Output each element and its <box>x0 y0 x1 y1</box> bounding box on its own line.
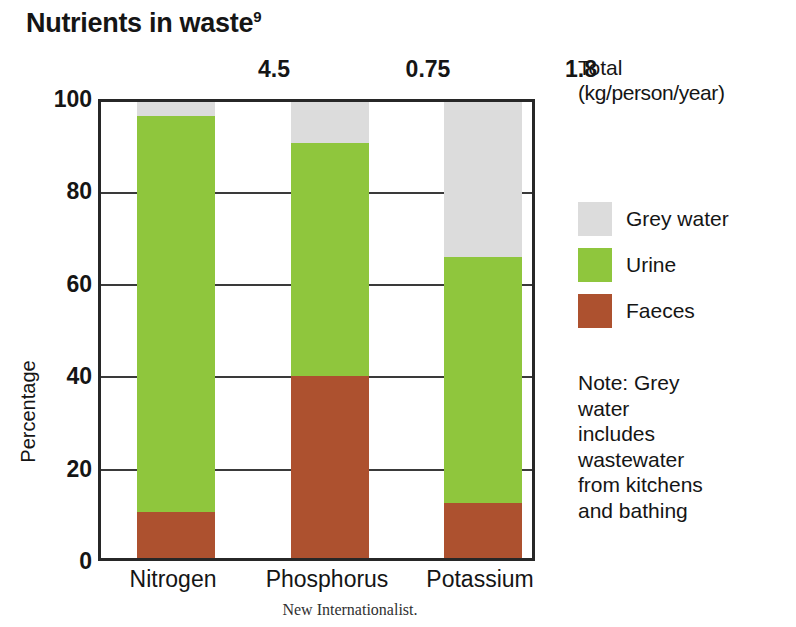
y-tick-80: 80 <box>16 178 92 205</box>
total-value-phosphorus: 0.75 <box>368 56 488 83</box>
legend-item-grey-water[interactable]: Grey water <box>578 196 790 242</box>
bar-segment-nitrogen-faeces <box>137 512 215 558</box>
category-totals-row: 4.5 0.75 1.8 <box>98 56 535 86</box>
note-line-1: Note: Grey <box>578 370 794 396</box>
total-value-nitrogen: 4.5 <box>214 56 334 83</box>
plot-area <box>98 99 535 561</box>
legend-item-faeces[interactable]: Faeces <box>578 288 790 334</box>
legend-swatch-faeces-icon <box>578 294 612 328</box>
bar-segment-nitrogen-grey-water <box>137 102 215 116</box>
legend-label-faeces: Faeces <box>626 299 695 323</box>
title-text: Nutrients in waste <box>26 8 253 38</box>
chart-note: Note: Grey water includes wastewater fro… <box>578 370 794 524</box>
source-credit: New Internationalist. <box>0 601 700 619</box>
y-tick-0: 0 <box>16 548 92 575</box>
legend-item-urine[interactable]: Urine <box>578 242 790 288</box>
page-title: Nutrients in waste9 <box>26 8 261 39</box>
legend-swatch-grey-water-icon <box>578 202 612 236</box>
bar-segment-nitrogen-urine <box>137 116 215 513</box>
y-tick-60: 60 <box>16 271 92 298</box>
y-axis-tick-labels: 100 80 60 40 20 0 <box>8 99 92 561</box>
totals-caption-line2: (kg/person/year) <box>578 81 796 106</box>
note-line-6: and bathing <box>578 498 794 524</box>
title-footnote-marker: 9 <box>253 8 261 25</box>
note-line-4: wastewater <box>578 447 794 473</box>
note-line-2: water <box>578 396 794 422</box>
bar-segment-phosphorus-faeces <box>291 376 369 558</box>
bar-segment-potassium-urine <box>444 257 522 503</box>
legend-label-urine: Urine <box>626 253 676 277</box>
totals-caption-line1: Total <box>578 56 796 81</box>
chart-legend: Grey water Urine Faeces <box>578 196 790 334</box>
note-line-3: includes <box>578 421 794 447</box>
legend-swatch-urine-icon <box>578 248 612 282</box>
x-label-nitrogen: Nitrogen <box>93 566 253 593</box>
x-label-potassium: Potassium <box>400 566 560 593</box>
y-tick-100: 100 <box>16 86 92 113</box>
chart-page: Nutrients in waste9 4.5 0.75 1.8 100 80 … <box>0 0 796 627</box>
bar-segment-potassium-grey-water <box>444 102 522 257</box>
y-axis-title: Percentage <box>17 332 40 492</box>
x-axis-category-labels: Nitrogen Phosphorus Potassium <box>98 566 535 600</box>
legend-label-grey-water: Grey water <box>626 207 729 231</box>
totals-caption: Total (kg/person/year) <box>578 56 796 106</box>
bar-segment-potassium-faeces <box>444 503 522 558</box>
x-label-phosphorus: Phosphorus <box>247 566 407 593</box>
note-line-5: from kitchens <box>578 472 794 498</box>
bar-segment-phosphorus-grey-water <box>291 102 369 143</box>
bar-segment-phosphorus-urine <box>291 143 369 376</box>
